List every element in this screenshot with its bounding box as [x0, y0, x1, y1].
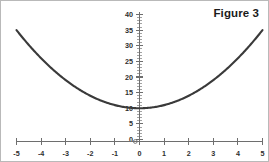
x-axis-tick-labels: -5-4-3-2-1012345 — [13, 149, 264, 158]
y-tick-label: 40 — [125, 10, 133, 19]
x-tick-label: 5 — [261, 149, 265, 158]
y-axis-tick-labels: 0510152025303540 — [125, 10, 133, 144]
x-tick-label: 4 — [236, 149, 240, 158]
x-tick-label: 3 — [211, 149, 215, 158]
y-tick-label: 25 — [125, 57, 133, 66]
y-tick-label: 35 — [125, 26, 133, 35]
x-tick-label: 2 — [187, 149, 191, 158]
y-tick-label: 0 — [129, 135, 133, 144]
figure-container: 0510152025303540 -5-4-3-2-1012345 Figure… — [0, 0, 269, 162]
x-tick-label: -2 — [87, 149, 93, 158]
x-tick-label: -3 — [62, 149, 68, 158]
y-tick-label: 5 — [129, 119, 133, 128]
y-tick-label: 20 — [125, 73, 133, 82]
parabola-chart: 0510152025303540 -5-4-3-2-1012345 — [1, 1, 269, 162]
y-tick-label: 30 — [125, 41, 133, 50]
x-tick-label: -5 — [13, 149, 19, 158]
x-tick-label: 0 — [138, 149, 142, 158]
x-tick-label: 1 — [162, 149, 166, 158]
figure-label: Figure 3 — [213, 7, 259, 19]
x-tick-label: -1 — [112, 149, 118, 158]
y-tick-label: 15 — [125, 88, 133, 97]
x-tick-label: -4 — [38, 149, 44, 158]
